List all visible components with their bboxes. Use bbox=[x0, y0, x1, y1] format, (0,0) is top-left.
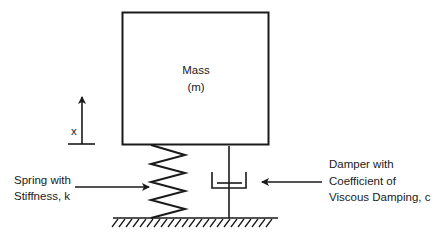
spring-label-line1: Spring with bbox=[14, 174, 71, 186]
ground-icon bbox=[112, 218, 278, 227]
mass-spring-damper-diagram: Mass (m) x bbox=[0, 0, 444, 241]
displacement-label: x bbox=[71, 125, 77, 137]
damper-icon bbox=[212, 146, 246, 218]
mass-symbol-label: (m) bbox=[187, 81, 204, 93]
mass-label: Mass bbox=[182, 64, 210, 76]
damper-label-line3: Viscous Damping, c bbox=[329, 191, 431, 203]
damper-label-line2: Coefficient of bbox=[329, 175, 397, 187]
damper-label-line1: Damper with bbox=[329, 158, 394, 170]
spring-label-line2: Stiffness, k bbox=[14, 190, 70, 202]
spring-icon bbox=[151, 145, 185, 218]
mass-block bbox=[123, 13, 269, 145]
